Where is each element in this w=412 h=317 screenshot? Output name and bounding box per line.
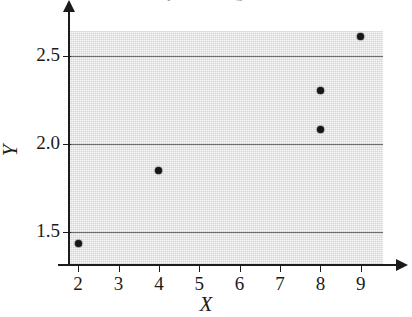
x-tick-5 — [199, 265, 200, 272]
data-point — [357, 33, 364, 40]
scatter-plot-figure: Scatterplot of Y against X 23456789 1.52… — [0, 0, 412, 317]
data-point — [317, 87, 324, 94]
gridline-y-2.5 — [68, 56, 383, 57]
x-axis-arrowhead — [396, 259, 408, 271]
x-tick-7 — [280, 265, 281, 272]
x-axis-line — [58, 264, 398, 266]
data-point — [155, 167, 162, 174]
x-tick-3 — [119, 265, 120, 272]
data-point — [75, 240, 82, 247]
gridline-y-2 — [68, 144, 383, 145]
y-axis-line — [68, 8, 70, 266]
x-axis-label: X — [0, 292, 412, 317]
gridline-y-1.5 — [68, 232, 383, 233]
y-tick-1.5 — [63, 232, 71, 233]
y-tick-label-2.5: 2.5 — [12, 44, 60, 66]
plot-area — [68, 31, 383, 265]
y-tick-2.0 — [63, 144, 71, 145]
x-tick-4 — [159, 265, 160, 272]
x-tick-6 — [240, 265, 241, 272]
y-axis-arrowhead — [63, 0, 75, 12]
x-tick-2 — [78, 265, 79, 272]
y-axis-label: Y — [0, 127, 23, 175]
x-tick-9 — [361, 265, 362, 272]
y-tick-2.5 — [63, 56, 71, 57]
data-point — [317, 126, 324, 133]
y-tick-label-1.5: 1.5 — [12, 220, 60, 242]
x-tick-8 — [320, 265, 321, 272]
cropped-title: Scatterplot of Y against X — [0, 0, 412, 7]
